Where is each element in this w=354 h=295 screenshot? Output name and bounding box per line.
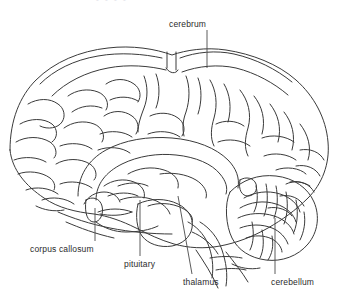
label-cerebellum: cerebellum — [271, 277, 314, 287]
label-cerebrum: cerebrum — [169, 19, 206, 29]
label-corpus-callosum: corpus callosum — [30, 244, 94, 254]
thalamus-brainstem — [137, 200, 246, 287]
parietal-lobe-sulci — [138, 74, 310, 186]
pituitary-gland — [85, 198, 158, 232]
label-thalamus: thalamus — [183, 277, 219, 287]
cortex-crown-gyri — [40, 52, 292, 96]
frontal-lobe-sulci — [14, 80, 140, 211]
cerebral-cortex-outline — [10, 47, 328, 248]
label-pituitary: pituitary — [124, 259, 155, 269]
cerebellum — [226, 176, 317, 261]
